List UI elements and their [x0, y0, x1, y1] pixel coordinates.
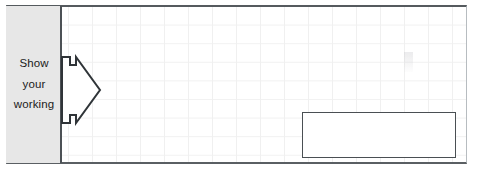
- instruction-line-1: Show: [19, 58, 48, 70]
- instruction-panel: Show your working: [6, 6, 62, 163]
- instruction-panel-text: Show your working: [6, 6, 62, 163]
- instruction-line-2: your: [23, 79, 46, 91]
- block-arrow-right-icon: [60, 54, 102, 126]
- instruction-line-3: working: [14, 99, 54, 111]
- worksheet-page: Show your working: [0, 0, 478, 181]
- answer-box[interactable]: [302, 112, 456, 158]
